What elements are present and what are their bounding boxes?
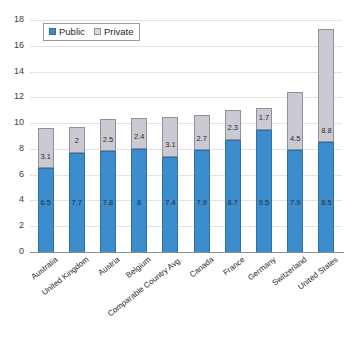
legend-label-public: Public [59, 26, 85, 37]
y-axis-tick-label: 16 [2, 40, 24, 50]
bar-stack: 1.79.5 [256, 108, 272, 252]
bar-stack: 2.38.7 [225, 110, 241, 252]
bar-segment-private: 4.5 [287, 92, 303, 150]
bar-segment-private: 2.3 [225, 110, 241, 140]
bar-value-label-public: 7.4 [165, 199, 175, 207]
y-axis-tick-label: 2 [2, 220, 24, 230]
chart-legend: Public Private [43, 23, 140, 41]
bar-value-label-private: 2.7 [196, 135, 206, 143]
y-axis-tick-label: 10 [2, 117, 24, 127]
bar-segment-private: 2 [69, 127, 85, 153]
bar-segment-public: 7.9 [194, 150, 210, 252]
bar-stack: 2.77.9 [194, 115, 210, 252]
bar-stack: 2.57.8 [100, 119, 116, 252]
y-axis-tick-label: 14 [2, 66, 24, 76]
y-axis-tick-label: 8 [2, 143, 24, 153]
bar-segment-private: 2.4 [131, 118, 147, 149]
legend-swatch-public-icon [49, 28, 56, 35]
bar-value-label-private: 2.3 [228, 124, 238, 132]
x-axis-tick-label: Belgium [124, 255, 152, 280]
bar-stack: 3.17.4 [162, 117, 178, 252]
legend-swatch-private-icon [94, 28, 101, 35]
bar-value-label-private: 1.7 [259, 114, 269, 122]
bar-stack: 8.88.5 [318, 29, 334, 252]
bar-segment-public: 7.4 [162, 157, 178, 252]
bar-segment-public: 8.7 [225, 140, 241, 252]
bar-value-label-private: 3.1 [165, 141, 175, 149]
x-axis-labels: AustraliaUnited KingdomAustriaBelgiumCom… [30, 253, 342, 353]
gridline [30, 46, 342, 47]
bar-value-label-private: 4.5 [290, 135, 300, 143]
bar-segment-public: 9.5 [256, 130, 272, 252]
x-axis-tick-label: France [221, 255, 246, 277]
bar-stack: 2.48 [131, 118, 147, 252]
x-axis-tick-label: Austria [96, 255, 121, 277]
bar-value-label-private: 8.8 [321, 127, 331, 135]
y-axis-tick-label: 18 [2, 14, 24, 24]
gridline [30, 72, 342, 73]
bar-value-label-private: 2.5 [103, 136, 113, 144]
gridline [30, 20, 342, 21]
bar-segment-private: 1.7 [256, 108, 272, 130]
bar-value-label-public: 8.5 [321, 199, 331, 207]
x-axis-tick-label: Canada [188, 255, 216, 279]
stacked-bar-chart: 3.16.527.72.57.82.483.17.42.77.92.38.71.… [0, 0, 349, 355]
bar-segment-public: 7.8 [100, 151, 116, 252]
bar-value-label-public: 7.8 [103, 199, 113, 207]
plot-area: 3.16.527.72.57.82.483.17.42.77.92.38.71.… [30, 20, 342, 252]
bar-stack: 27.7 [69, 127, 85, 252]
bar-value-label-private: 2 [75, 137, 79, 145]
bar-value-label-private: 3.1 [40, 153, 50, 161]
legend-item-public: Public [49, 26, 85, 37]
bar-value-label-public: 7.9 [196, 199, 206, 207]
bar-segment-public: 8 [131, 149, 147, 252]
bar-segment-public: 8.5 [318, 142, 334, 252]
bar-value-label-private: 2.4 [134, 133, 144, 141]
bar-value-label-public: 6.5 [40, 199, 50, 207]
legend-item-private: Private [94, 26, 134, 37]
bar-value-label-public: 8.7 [228, 199, 238, 207]
y-axis-tick-label: 6 [2, 169, 24, 179]
bar-value-label-public: 8 [137, 199, 141, 207]
bar-segment-private: 2.5 [100, 119, 116, 151]
bar-value-label-public: 9.5 [259, 199, 269, 207]
bar-value-label-public: 7.9 [290, 199, 300, 207]
bar-segment-private: 2.7 [194, 115, 210, 150]
bar-segment-public: 6.5 [38, 168, 54, 252]
bar-value-label-public: 7.7 [72, 199, 82, 207]
legend-label-private: Private [104, 26, 134, 37]
bar-stack: 4.57.9 [287, 92, 303, 252]
bar-segment-private: 8.8 [318, 29, 334, 142]
y-axis-tick-label: 12 [2, 91, 24, 101]
bar-segment-private: 3.1 [162, 117, 178, 157]
y-axis-tick-label: 0 [2, 246, 24, 256]
bar-segment-public: 7.7 [69, 153, 85, 252]
y-axis-tick-label: 4 [2, 194, 24, 204]
bar-segment-private: 3.1 [38, 128, 54, 168]
bar-stack: 3.16.5 [38, 128, 54, 252]
bar-segment-public: 7.9 [287, 150, 303, 252]
